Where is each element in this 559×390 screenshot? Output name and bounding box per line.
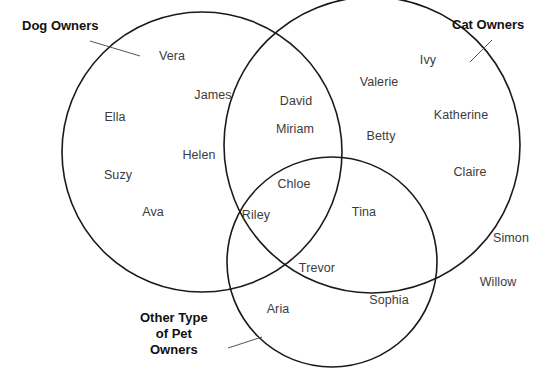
member-name-david: David — [280, 94, 312, 108]
venn-diagram-canvas: VeraJamesEllaHelenSuzyAvaDavidMiriamIvyV… — [0, 0, 559, 390]
member-name-valerie: Valerie — [360, 75, 399, 89]
set-label-other-line-0: Other Type — [140, 310, 208, 326]
member-name-ava: Ava — [142, 205, 164, 219]
member-name-trevor: Trevor — [299, 261, 335, 275]
set-label-other-line-1: of Pet — [140, 326, 208, 342]
member-name-willow: Willow — [480, 275, 517, 289]
member-name-tina: Tina — [352, 205, 376, 219]
member-name-ivy: Ivy — [420, 53, 436, 67]
member-name-riley: Riley — [242, 208, 270, 222]
member-name-chloe: Chloe — [277, 177, 310, 191]
set-label-dog-line-0: Dog Owners — [22, 18, 99, 34]
member-name-katherine: Katherine — [434, 108, 488, 122]
leader-line-cat — [470, 40, 492, 62]
venn-circles-layer — [0, 0, 559, 390]
member-name-aria: Aria — [267, 302, 290, 316]
member-name-claire: Claire — [453, 165, 486, 179]
set-circle-cat — [224, 0, 520, 293]
leader-line-other — [228, 337, 262, 348]
set-label-cat: Cat Owners — [452, 17, 524, 33]
member-name-helen: Helen — [182, 148, 215, 162]
member-name-sophia: Sophia — [369, 293, 409, 307]
member-name-james: James — [194, 88, 231, 102]
member-name-betty: Betty — [367, 129, 396, 143]
member-name-ella: Ella — [104, 110, 125, 124]
member-name-suzy: Suzy — [104, 168, 132, 182]
label-leader-lines — [90, 40, 492, 348]
set-label-other-line-2: Owners — [140, 342, 208, 358]
member-name-simon: Simon — [493, 231, 529, 245]
member-name-vera: Vera — [159, 49, 185, 63]
set-label-dog: Dog Owners — [22, 18, 99, 34]
member-name-miriam: Miriam — [276, 122, 314, 136]
set-label-cat-line-0: Cat Owners — [452, 17, 524, 33]
set-label-other: Other Typeof PetOwners — [140, 310, 208, 358]
